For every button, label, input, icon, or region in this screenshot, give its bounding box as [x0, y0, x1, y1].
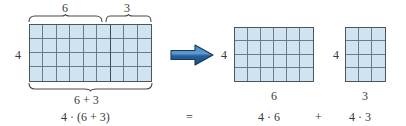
- left-model-top-label-left: 6: [62, 2, 68, 14]
- grid-cell: [359, 55, 372, 68]
- right-arrow-icon: [170, 44, 214, 66]
- grid-cell: [235, 41, 248, 54]
- grid-cell: [346, 55, 359, 68]
- right-model-grid: [345, 27, 386, 82]
- grid-cell: [111, 53, 124, 67]
- grid-cell: [372, 68, 385, 81]
- grid-cell: [346, 68, 359, 81]
- left-model-bottom-brace-label: 6 + 3: [74, 94, 99, 106]
- grid-cell: [372, 28, 385, 41]
- grid-cell: [261, 41, 274, 54]
- grid-cell: [124, 39, 137, 53]
- grid-cell: [274, 68, 287, 81]
- grid-cell: [57, 25, 70, 39]
- grid-cell: [261, 28, 274, 41]
- grid-cell: [97, 67, 110, 81]
- grid-cell: [43, 67, 56, 81]
- grid-cell: [261, 55, 274, 68]
- grid-cell: [300, 28, 313, 41]
- grid-cell: [235, 28, 248, 41]
- grid-cell: [30, 39, 43, 53]
- grid-cell: [97, 39, 110, 53]
- grid-cell: [359, 68, 372, 81]
- grid-cell: [287, 68, 300, 81]
- grid-cell: [274, 41, 287, 54]
- grid-cell: [300, 68, 313, 81]
- grid-cell: [235, 55, 248, 68]
- middle-model-grid: [234, 27, 314, 82]
- grid-cell: [248, 55, 261, 68]
- right-model-expression: 4 · 3: [349, 111, 371, 123]
- grid-cell: [359, 41, 372, 54]
- grid-cell: [57, 39, 70, 53]
- grid-cell: [274, 28, 287, 41]
- grid-cell: [70, 39, 83, 53]
- top-brace-right: [105, 14, 152, 23]
- grid-cell: [30, 53, 43, 67]
- distributive-property-figure: 6 3 4: [0, 0, 406, 126]
- grid-cell: [138, 39, 151, 53]
- grid-cell: [70, 67, 83, 81]
- middle-model-expression: 4 · 6: [258, 111, 280, 123]
- middle-model-bottom-label: 6: [271, 90, 277, 102]
- grid-cell: [43, 25, 56, 39]
- grid-cell: [57, 67, 70, 81]
- grid-cell: [84, 39, 97, 53]
- grid-cell: [248, 28, 261, 41]
- grid-cell: [287, 28, 300, 41]
- grid-cell: [248, 68, 261, 81]
- left-model-top-label-right: 3: [124, 2, 130, 14]
- grid-cell: [84, 53, 97, 67]
- grid-cell: [57, 53, 70, 67]
- grid-cell: [30, 67, 43, 81]
- grid-cell: [346, 41, 359, 54]
- grid-cell: [300, 41, 313, 54]
- grid-cell: [84, 25, 97, 39]
- right-model-bottom-label: 3: [362, 90, 368, 102]
- grid-cell: [97, 53, 110, 67]
- grid-cell: [111, 25, 124, 39]
- grid-cell: [287, 41, 300, 54]
- grid-cell: [124, 25, 137, 39]
- grid-cell: [43, 39, 56, 53]
- grid-cell: [248, 41, 261, 54]
- left-model-expression: 4 · (6 + 3): [61, 111, 110, 123]
- equals-sign: =: [186, 111, 193, 123]
- right-model-side-label: 4: [333, 49, 339, 61]
- grid-cell: [372, 41, 385, 54]
- grid-cell: [346, 28, 359, 41]
- grid-cell: [124, 67, 137, 81]
- grid-cell: [84, 67, 97, 81]
- grid-cell: [138, 53, 151, 67]
- grid-cell: [97, 25, 110, 39]
- grid-cell: [287, 55, 300, 68]
- grid-cell: [111, 67, 124, 81]
- grid-cell: [235, 68, 248, 81]
- top-brace-left: [28, 14, 103, 23]
- grid-cell: [70, 53, 83, 67]
- grid-cell: [70, 25, 83, 39]
- grid-cell: [261, 68, 274, 81]
- grid-cell: [138, 25, 151, 39]
- grid-cell: [43, 53, 56, 67]
- middle-model-side-label: 4: [221, 49, 227, 61]
- left-model-side-label: 4: [15, 49, 21, 61]
- grid-cell: [359, 28, 372, 41]
- left-model-grid: [29, 24, 152, 82]
- grid-cell: [138, 67, 151, 81]
- grid-cell: [111, 39, 124, 53]
- bottom-brace: [28, 83, 153, 92]
- grid-cell: [372, 55, 385, 68]
- grid-cell: [274, 55, 287, 68]
- grid-cell: [124, 53, 137, 67]
- grid-cell: [30, 25, 43, 39]
- grid-cell: [300, 55, 313, 68]
- plus-sign: +: [315, 111, 322, 123]
